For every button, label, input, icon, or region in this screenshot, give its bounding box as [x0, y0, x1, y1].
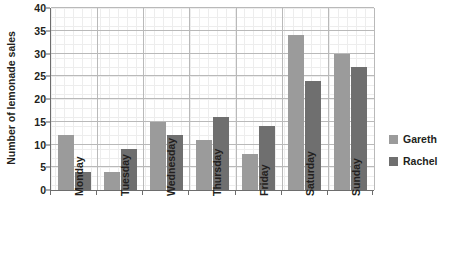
bar-gareth-thursday	[196, 140, 212, 190]
x-axis-label-sunday: Sunday	[327, 196, 373, 268]
y-axis-title-text: Number of lemonade sales	[5, 31, 17, 165]
legend-swatch-rachel	[389, 157, 398, 166]
x-tick-mark	[96, 190, 97, 195]
x-axis-label-text: Friday	[258, 164, 270, 196]
x-axis-labels: MondayTuesdayWednesdayThursdayFridaySatu…	[50, 196, 373, 268]
x-axis-label-thursday: Thursday	[188, 196, 234, 268]
x-tick-mark	[372, 190, 373, 195]
gridline-vertical	[374, 8, 375, 190]
x-axis-label-wednesday: Wednesday	[142, 196, 188, 268]
chart-legend: GarethRachel	[389, 133, 452, 177]
x-tick-mark	[188, 190, 189, 195]
legend-item-gareth[interactable]: Gareth	[389, 133, 452, 145]
y-tick-label: 30	[34, 48, 46, 59]
x-axis-label-text: Saturday	[304, 151, 316, 196]
bar-gareth-friday	[242, 154, 258, 190]
x-axis-label-tuesday: Tuesday	[96, 196, 142, 268]
x-axis-label-text: Wednesday	[165, 138, 177, 196]
legend-label-rachel: Rachel	[403, 155, 437, 167]
legend-label-gareth: Gareth	[403, 133, 437, 145]
x-axis-label-saturday: Saturday	[281, 196, 327, 268]
x-tick-mark	[142, 190, 143, 195]
x-axis-label-text: Monday	[73, 156, 85, 196]
bar-gareth-wednesday	[150, 122, 166, 190]
y-tick-label: 15	[34, 117, 46, 128]
y-tick-label: 20	[34, 94, 46, 105]
x-tick-mark	[327, 190, 328, 195]
x-tick-mark	[235, 190, 236, 195]
legend-swatch-gareth	[389, 135, 398, 144]
bar-gareth-sunday	[334, 54, 350, 191]
bar-gareth-tuesday	[104, 172, 120, 190]
x-axis-label-text: Sunday	[350, 158, 362, 196]
y-axis-title: Number of lemonade sales	[0, 0, 22, 195]
x-tick-mark	[281, 190, 282, 195]
y-tick-label: 40	[34, 3, 46, 14]
bar-chart: Number of lemonade sales 051015202530354…	[0, 0, 452, 268]
y-tick-label: 10	[34, 139, 46, 150]
x-axis-label-monday: Monday	[50, 196, 96, 268]
bar-gareth-monday	[58, 135, 74, 190]
y-tick-label: 25	[34, 71, 46, 82]
x-axis-label-text: Tuesday	[119, 154, 131, 196]
x-tick-mark	[50, 190, 51, 195]
x-axis-label-friday: Friday	[235, 196, 281, 268]
x-axis-label-text: Thursday	[211, 149, 223, 196]
bar-gareth-saturday	[288, 35, 304, 190]
legend-item-rachel[interactable]: Rachel	[389, 155, 452, 167]
y-axis-ticks: 0510152025303540	[22, 4, 50, 190]
y-tick-label: 35	[34, 26, 46, 37]
